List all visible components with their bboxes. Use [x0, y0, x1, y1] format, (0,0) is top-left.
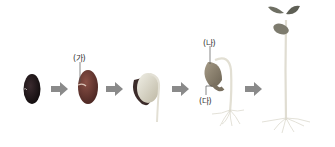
stage-seedling: [204, 46, 244, 126]
arrow-icon: [106, 82, 123, 96]
true-leaf: [286, 6, 300, 15]
germination-diagram: [0, 0, 335, 147]
roots: [212, 110, 244, 126]
cotyledon: [272, 22, 290, 37]
stage-young-plant: [262, 6, 310, 133]
stage-dry-seed: [24, 74, 41, 104]
cotyledon: [204, 62, 222, 87]
arrow-icon: [172, 82, 189, 96]
swollen-bean-seed: [78, 70, 98, 104]
label-na: (나): [203, 37, 215, 48]
label-ga: (가): [73, 52, 85, 63]
stage-radicle-emerging: [133, 73, 159, 122]
label-pointer-line: [206, 86, 212, 95]
label-da: (다): [199, 95, 211, 106]
roots: [262, 118, 310, 133]
arrow-icon: [51, 82, 68, 96]
stem: [286, 20, 287, 120]
stage-swollen-seed: [78, 62, 98, 104]
true-leaf: [268, 7, 284, 14]
arrow-icon: [245, 82, 262, 96]
